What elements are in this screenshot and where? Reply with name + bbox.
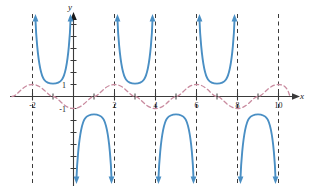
arrow-up-icon-c2 bbox=[232, 14, 238, 22]
arrow-down-icon-d1 bbox=[74, 177, 80, 185]
x-tick-label-8: 8 bbox=[236, 101, 240, 110]
y-axis-label: y bbox=[67, 2, 72, 12]
arrow-down-icon-f1 bbox=[238, 177, 244, 185]
arrow-up-icon-a1 bbox=[33, 14, 39, 22]
arrow-up-icon-b1 bbox=[115, 14, 121, 22]
y-axis bbox=[70, 12, 77, 186]
x-tick-label-neg2: -2 bbox=[29, 101, 36, 110]
arrow-down-icon-e1 bbox=[156, 177, 162, 185]
y-tick-label-neg1: -1 bbox=[59, 105, 66, 114]
arrow-down-icon-e2 bbox=[191, 177, 197, 185]
csc-lower-branch-3 bbox=[241, 114, 276, 178]
x-tick-label-10: 10 bbox=[275, 101, 283, 110]
y-tick-label-1: 1 bbox=[62, 81, 66, 90]
plot-canvas: -2 2 4 6 8 10 1 -1 x y bbox=[0, 0, 312, 194]
csc-upper-branch-2 bbox=[118, 20, 153, 84]
arrow-up-icon-c1 bbox=[197, 14, 203, 22]
csc-lower-branch-2 bbox=[159, 114, 194, 178]
x-tick-label-2: 2 bbox=[113, 101, 117, 110]
arrow-down-icon-f2 bbox=[273, 177, 279, 185]
graph-figure: -2 2 4 6 8 10 1 -1 x y bbox=[0, 0, 312, 194]
csc-upper-branch-3 bbox=[200, 20, 235, 84]
x-tick-labels: -2 2 4 6 8 10 bbox=[29, 101, 282, 110]
x-tick-label-4: 4 bbox=[154, 101, 158, 110]
arrow-down-icon-d2 bbox=[109, 177, 115, 185]
arrow-up-icon-b2 bbox=[150, 14, 156, 22]
x-tick-label-6: 6 bbox=[195, 101, 199, 110]
csc-upper-branch-1 bbox=[36, 20, 71, 84]
x-axis-label: x bbox=[299, 91, 304, 101]
x-axis-arrow-icon bbox=[292, 93, 300, 100]
csc-lower-branch-1 bbox=[77, 114, 112, 178]
